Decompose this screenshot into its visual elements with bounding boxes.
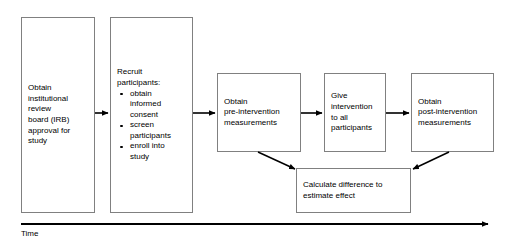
node-obtain-pre-intervention-measurements: Obtain pre-intervention measurements bbox=[217, 73, 301, 152]
recruit-content: Recruit participants: obtain informed co… bbox=[111, 67, 192, 162]
arrow-post-to-calculate bbox=[413, 152, 449, 169]
arrow-pre-to-calculate bbox=[258, 152, 295, 169]
node-give-intervention-label: Give intervention to all participants bbox=[325, 91, 385, 133]
node-obtain-post-intervention-measurements-label: Obtain post-intervention measurements bbox=[412, 97, 493, 129]
time-axis-label: Time bbox=[21, 229, 38, 239]
list-item: obtain informed consent bbox=[117, 89, 186, 121]
flowchart-canvas: Obtain institutional review board (IRB) … bbox=[0, 0, 513, 246]
node-obtain-irb-approval-label: Obtain institutional review board (IRB) … bbox=[22, 83, 94, 147]
node-recruit-participants: Recruit participants: obtain informed co… bbox=[110, 17, 193, 213]
node-give-intervention: Give intervention to all participants bbox=[324, 73, 386, 152]
node-calculate-difference: Calculate difference to estimate effect bbox=[296, 168, 411, 213]
node-obtain-irb-approval: Obtain institutional review board (IRB) … bbox=[21, 17, 95, 213]
node-obtain-post-intervention-measurements: Obtain post-intervention measurements bbox=[411, 73, 494, 152]
recruit-bullet-list: obtain informed consent screen participa… bbox=[117, 89, 186, 163]
node-calculate-difference-label: Calculate difference to estimate effect bbox=[297, 180, 410, 201]
list-item: screen participants bbox=[117, 120, 186, 141]
list-item: enroll into study bbox=[117, 141, 186, 162]
node-recruit-participants-label: Recruit participants: bbox=[117, 67, 186, 88]
node-obtain-pre-intervention-measurements-label: Obtain pre-intervention measurements bbox=[218, 97, 300, 129]
